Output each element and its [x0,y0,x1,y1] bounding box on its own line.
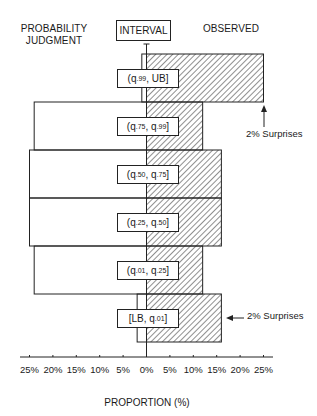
interval-label: (q.01, q.25] [117,261,179,280]
observed-bars [147,54,264,342]
x-axis-title: PROPORTION (%) [97,397,197,408]
interval-label: (q.99, UB] [117,69,179,88]
interval-label: (q.50, q.75] [117,165,179,184]
interval-label: (q.25, q.50] [117,213,179,232]
header-interval: INTERVAL [116,20,171,41]
interval-label: (q.75, q.99] [117,117,179,136]
annotation-bottom-surprises: 2% Surprises [247,310,304,321]
interval-label: [LB, q.01] [117,309,179,328]
header-probability-judgment: PROBABILITY JUDGMENT [14,23,94,47]
chart-plot-area [0,0,317,416]
annotation-top-surprises: 2% Surprises [246,128,303,139]
header-observed: OBSERVED [196,23,266,35]
x-tick-label: 25% [249,364,279,375]
probability-judgment-bars [30,54,147,342]
